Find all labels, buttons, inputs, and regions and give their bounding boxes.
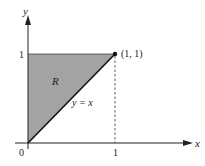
point-1-1 xyxy=(113,52,117,56)
region-label: R xyxy=(51,75,59,87)
origin-label: 0 xyxy=(19,147,24,158)
x-axis-arrow-icon xyxy=(183,140,193,146)
line-label: y = x xyxy=(71,97,93,108)
x-tick-label: 1 xyxy=(113,147,118,158)
point-label: (1, 1) xyxy=(121,48,143,60)
y-tick-label: 1 xyxy=(19,49,24,60)
y-axis-label: y xyxy=(22,5,28,17)
region-diagram: y x 1 1 0 R y = x (1, 1) xyxy=(0,0,205,166)
x-axis-label: x xyxy=(194,137,200,149)
